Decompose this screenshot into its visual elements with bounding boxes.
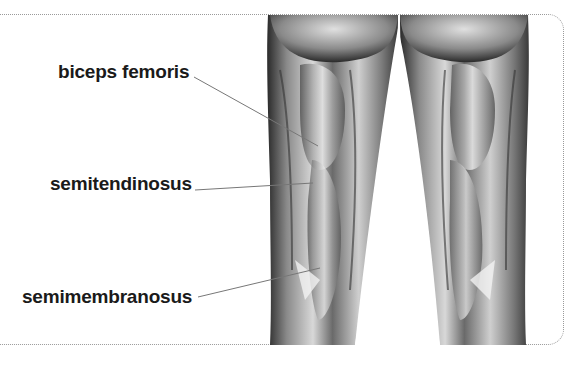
label-semimembranosus: semimembranosus [22, 287, 192, 306]
label-semitendinosus: semitendinosus [50, 174, 192, 193]
label-biceps-femoris: biceps femoris [58, 62, 189, 81]
